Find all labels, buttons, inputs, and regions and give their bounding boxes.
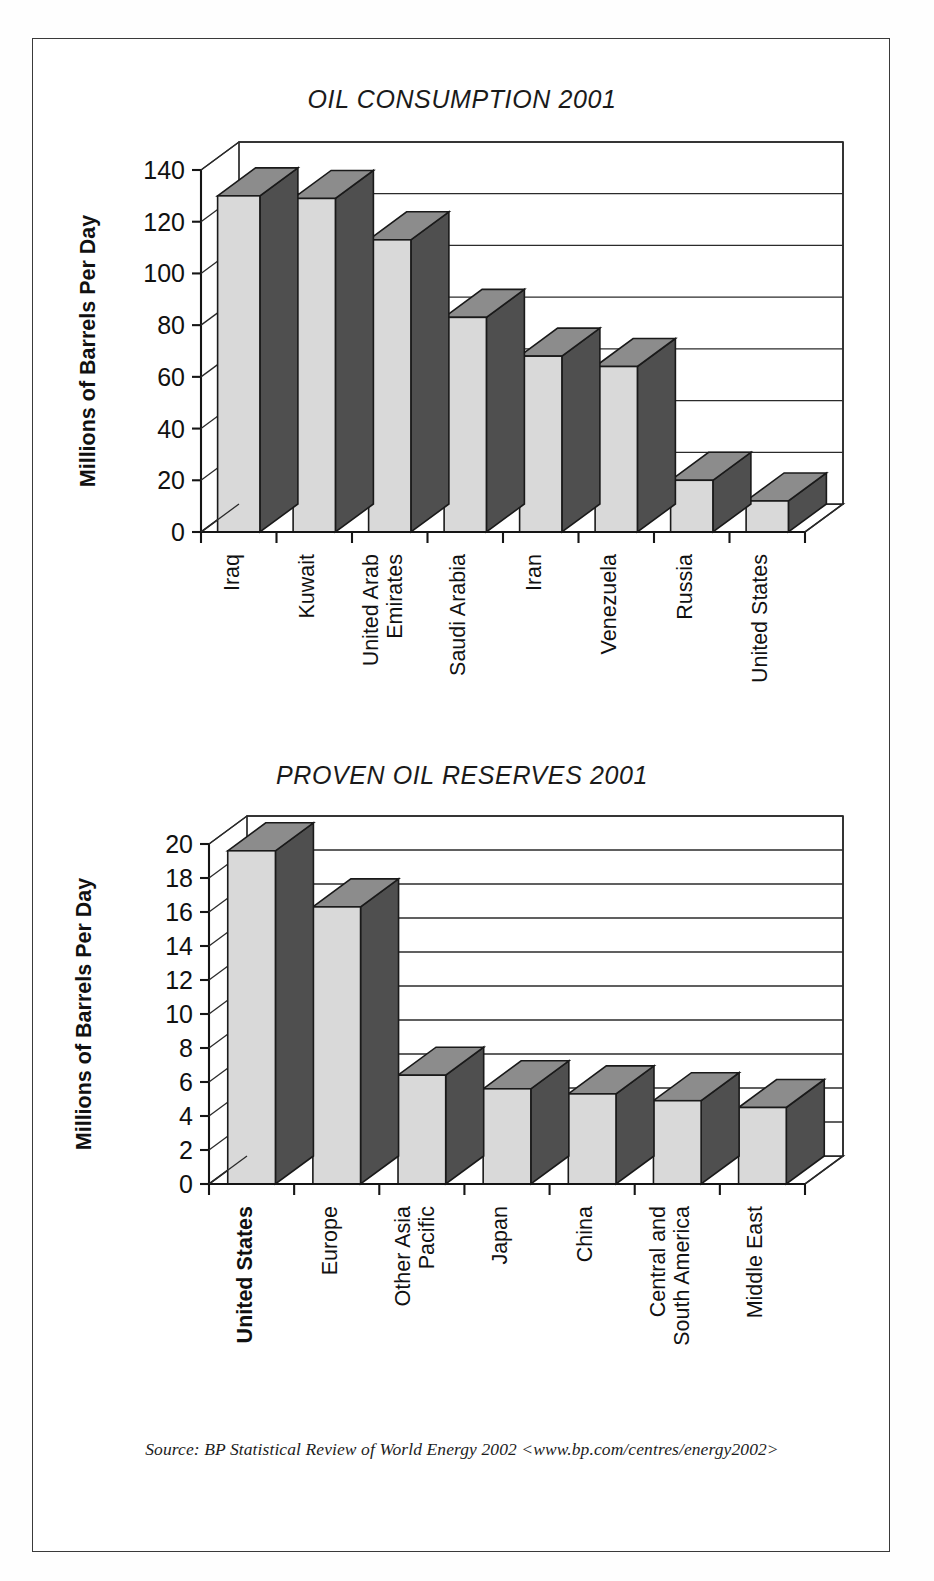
x-category-label: Pacific [415,1206,439,1270]
x-category-label: Iran [522,554,546,591]
y-axis-title: Millions of Barrels Per Day [76,215,100,487]
source-note: Source: BP Statistical Review of World E… [33,1439,891,1460]
x-category-label: Kuwait [295,554,319,619]
bar-column [313,879,399,1184]
chart-oil-consumption: OIL CONSUMPTION 2001 020406080100120140I… [33,75,891,775]
x-category-label: Russia [673,554,697,620]
bar-column [398,1047,484,1184]
x-category-label: Central and [646,1206,670,1317]
y-tick-label: 16 [165,898,193,926]
x-category-label: Venezuela [597,554,621,654]
y-tick-label: 4 [179,1102,193,1130]
x-category-label: United Arab [359,554,383,666]
x-category-label: Iraq [220,554,244,591]
x-category-label: United States [233,1206,257,1343]
y-tick-label: 120 [143,208,185,236]
y-tick-label: 20 [157,466,185,494]
y-tick-label: 100 [143,259,185,287]
page-canvas: OIL CONSUMPTION 2001 020406080100120140I… [0,0,934,1581]
x-category-label: United States [748,554,772,683]
x-category-label: China [573,1206,597,1262]
y-tick-label: 0 [179,1170,193,1198]
y-tick-label: 140 [143,156,185,184]
bar-column [520,328,600,532]
y-axis-title: Millions of Barrels Per Day [72,878,96,1150]
chart1-plot: 020406080100120140IraqKuwaitUnited ArabE… [33,114,891,774]
bar-column [444,289,524,532]
x-category-label: Japan [488,1206,512,1265]
x-category-label: Saudi Arabia [446,554,470,676]
bar-column [218,168,298,532]
chart1-title: OIL CONSUMPTION 2001 [33,85,891,114]
y-tick-label: 18 [165,864,193,892]
x-category-label: Middle East [743,1206,767,1318]
y-tick-label: 0 [171,518,185,546]
y-tick-label: 60 [157,363,185,391]
x-category-label: Europe [318,1206,342,1275]
bar-column [595,339,675,532]
y-tick-label: 10 [165,1000,193,1028]
y-tick-label: 12 [165,966,193,994]
bar-column [293,170,373,532]
bar-column [369,212,449,532]
bar-column [568,1066,654,1184]
y-tick-label: 20 [165,830,193,858]
y-tick-label: 8 [179,1034,193,1062]
y-tick-label: 2 [179,1136,193,1164]
chart-proven-reserves: PROVEN OIL RESERVES 2001 024681012141618… [33,757,891,1437]
y-tick-label: 40 [157,415,185,443]
x-category-label: South America [670,1206,694,1346]
bar-column [483,1061,569,1184]
y-tick-label: 80 [157,311,185,339]
y-tick-label: 14 [165,932,193,960]
figure-border: OIL CONSUMPTION 2001 020406080100120140I… [32,38,890,1552]
bar-column [228,823,314,1184]
chart2-title: PROVEN OIL RESERVES 2001 [33,761,891,790]
x-category-label: Emirates [383,554,407,639]
y-tick-label: 6 [179,1068,193,1096]
chart2-plot: 02468101214161820United StatesEuropeOthe… [33,790,891,1430]
x-category-label: Other Asia [391,1206,415,1306]
